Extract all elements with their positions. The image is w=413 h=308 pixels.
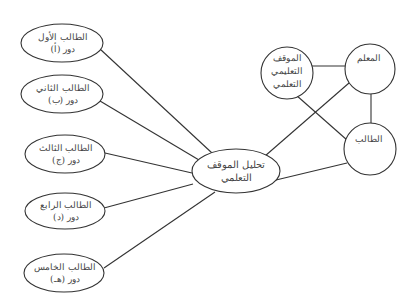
label-student-1: الطالب الأول دور (أ) — [38, 31, 88, 55]
student-label: الطالب — [355, 133, 383, 145]
edge-s1-analysis — [100, 49, 212, 153]
label-student-4: الطالب الرابع دور (د) — [40, 199, 93, 223]
label-situation: الموقف التعليمي التعلمي — [271, 52, 303, 91]
student-1-name: الطالب الأول — [38, 31, 88, 43]
student-1-role: دور (أ) — [38, 43, 88, 55]
analysis-line-1: تحليل الموقف — [207, 158, 265, 171]
situation-line-3: التعلمي — [271, 78, 303, 91]
student-2-role: دور (ب) — [36, 94, 90, 106]
label-student: الطالب — [355, 133, 383, 145]
student-5-role: دور (هـ) — [34, 273, 96, 285]
edge-s3-analysis — [105, 153, 192, 173]
node-student — [344, 123, 396, 175]
situation-line-2: التعليمي — [271, 65, 303, 78]
student-5-name: الطالب الخامس — [34, 261, 96, 273]
teacher-label: المعلم — [357, 52, 381, 64]
label-teacher: المعلم — [357, 52, 381, 64]
concept-diagram: الطالب الأول دور (أ) الطالب الثاني دور (… — [0, 0, 413, 308]
situation-line-1: الموقف — [271, 52, 303, 65]
student-4-name: الطالب الرابع — [40, 199, 93, 211]
label-student-2: الطالب الثاني دور (ب) — [36, 82, 90, 106]
student-2-name: الطالب الثاني — [36, 82, 90, 94]
student-3-name: الطالب الثالث — [39, 142, 94, 154]
label-student-3: الطالب الثالث دور (ج) — [39, 142, 94, 166]
edge-situation-student — [296, 95, 347, 140]
student-4-role: دور (د) — [40, 211, 93, 223]
edge-s2-analysis — [100, 101, 199, 160]
edge-s4-analysis — [104, 184, 193, 208]
student-3-role: دور (ج) — [39, 154, 94, 166]
label-analysis: تحليل الموقف التعلمي — [207, 158, 265, 184]
label-student-5: الطالب الخامس دور (هـ) — [34, 261, 96, 285]
edge-analysis-student — [276, 163, 347, 180]
analysis-line-2: التعلمي — [207, 171, 265, 184]
